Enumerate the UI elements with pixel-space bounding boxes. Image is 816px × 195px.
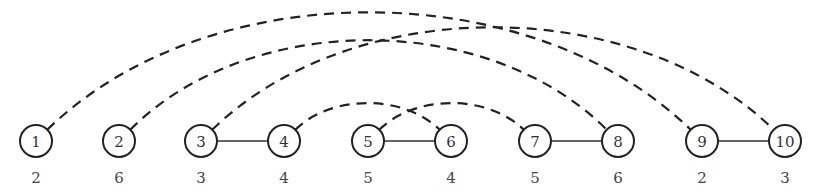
node-weight-6: 4 [446, 169, 456, 187]
node-weight-4: 4 [279, 169, 289, 187]
node-7: 7 [519, 125, 551, 157]
node-label: 2 [114, 133, 124, 151]
node-label: 3 [196, 133, 206, 151]
node-label: 7 [530, 133, 540, 151]
dashed-edge-1-9 [47, 12, 691, 130]
node-weight-3: 3 [196, 169, 206, 187]
node-8: 8 [602, 125, 634, 157]
node-5: 5 [352, 125, 384, 157]
node-1: 1 [20, 125, 52, 157]
node-weight-8: 6 [613, 169, 623, 187]
node-weight-1: 2 [31, 169, 41, 187]
node-weight-10: 3 [780, 169, 790, 187]
node-3: 3 [185, 125, 217, 157]
node-10: 10 [769, 125, 801, 157]
node-9: 9 [686, 125, 718, 157]
node-label: 5 [363, 133, 373, 151]
dashed-edges [47, 12, 774, 130]
dashed-edge-3-10 [212, 27, 774, 130]
node-6: 6 [435, 125, 467, 157]
node-label: 9 [697, 133, 707, 151]
node-label: 8 [613, 133, 623, 151]
node-label: 1 [31, 133, 41, 151]
graph-diagram: 12345678910 2634545623 [0, 0, 816, 195]
node-label: 10 [775, 133, 794, 151]
node-4: 4 [268, 125, 300, 157]
node-weight-5: 5 [363, 169, 373, 187]
node-2: 2 [103, 125, 135, 157]
node-weight-2: 6 [114, 169, 124, 187]
node-weight-9: 2 [697, 169, 707, 187]
dashed-edge-2-8 [130, 40, 607, 130]
node-weights: 2634545623 [31, 169, 790, 187]
node-label: 6 [446, 133, 456, 151]
node-weight-7: 5 [530, 169, 540, 187]
node-label: 4 [279, 133, 289, 151]
